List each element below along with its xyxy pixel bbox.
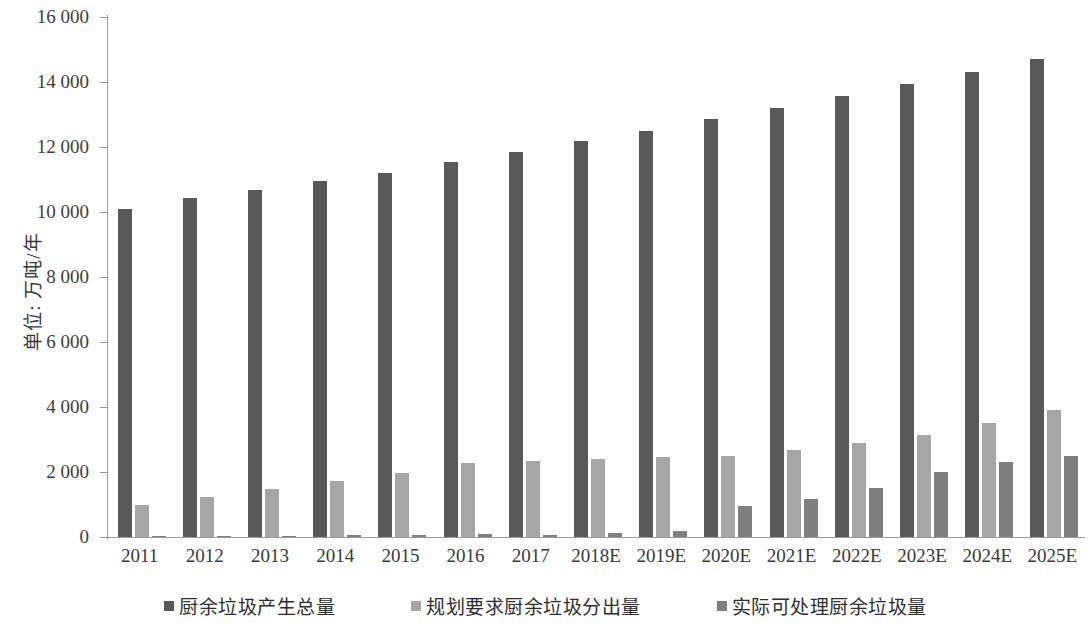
bar-2018e-series2[interactable]: [591, 459, 605, 537]
bar-group: [248, 17, 296, 537]
bar-2016-series2[interactable]: [461, 463, 475, 537]
bar-2018e-series3[interactable]: [608, 533, 622, 537]
bar-2023e-series2[interactable]: [917, 435, 931, 537]
bar-2016-series3[interactable]: [478, 534, 492, 537]
bar-2017-series1[interactable]: [509, 152, 523, 537]
bar-group: [900, 17, 948, 537]
x-axis-tick-label: 2012: [172, 545, 237, 567]
bar-2025e-series1[interactable]: [1030, 59, 1044, 537]
x-axis-tick-label: 2017: [498, 545, 563, 567]
y-axis-tick-label: 0: [0, 526, 95, 548]
x-axis-tick-label: 2019E: [629, 545, 694, 567]
x-axis-tick-label: 2023E: [889, 545, 954, 567]
bar-2019e-series3[interactable]: [673, 531, 687, 538]
bar-2021e-series3[interactable]: [804, 499, 818, 537]
bar-2017-series3[interactable]: [543, 535, 557, 537]
bar-2021e-series1[interactable]: [770, 108, 784, 537]
bar-2011-series2[interactable]: [135, 505, 149, 538]
y-axis-tick-label: 2 000: [0, 461, 95, 483]
bar-group: [704, 17, 752, 537]
legend-label: 厨余垃圾产生总量: [179, 592, 335, 619]
bar-2011-series3[interactable]: [152, 536, 166, 537]
bar-2021e-series2[interactable]: [787, 450, 801, 537]
x-axis-tick-label: 2025E: [1020, 545, 1085, 567]
y-axis-tick: [100, 277, 107, 278]
bar-2014-series1[interactable]: [313, 181, 327, 537]
x-axis-tick-label: 2022E: [824, 545, 889, 567]
x-axis-tick-label: 2024E: [955, 545, 1020, 567]
legend-item-3[interactable]: 实际可处理厨余垃圾量: [717, 592, 927, 619]
legend-item-2[interactable]: 规划要求厨余垃圾分出量: [411, 592, 641, 619]
bar-2013-series1[interactable]: [248, 190, 262, 537]
bar-2017-series2[interactable]: [526, 461, 540, 537]
x-axis-tick-label: 2016: [433, 545, 498, 567]
x-axis-tick-label: 2013: [237, 545, 302, 567]
bar-group: [574, 17, 622, 537]
bar-2012-series3[interactable]: [217, 536, 231, 537]
bar-2025e-series3[interactable]: [1064, 456, 1078, 537]
bar-2014-series2[interactable]: [330, 481, 344, 537]
y-axis-tick: [100, 82, 107, 83]
legend-label: 实际可处理厨余垃圾量: [732, 592, 927, 619]
x-axis-tick-label: 2011: [107, 545, 172, 567]
bar-group: [770, 17, 818, 537]
bar-group: [639, 17, 687, 537]
bar-2022e-series2[interactable]: [852, 443, 866, 537]
bar-group: [118, 17, 166, 537]
bar-2013-series2[interactable]: [265, 489, 279, 537]
x-axis-tick-label: 2018E: [563, 545, 628, 567]
bar-2025e-series2[interactable]: [1047, 410, 1061, 537]
y-axis-tick-label: 8 000: [0, 266, 95, 288]
x-axis-tick-label: 2021E: [759, 545, 824, 567]
bar-2015-series1[interactable]: [378, 173, 392, 537]
bar-group: [965, 17, 1013, 537]
bar-2024e-series3[interactable]: [999, 462, 1013, 537]
bar-group: [1030, 17, 1078, 537]
bar-2024e-series2[interactable]: [982, 423, 996, 537]
bar-2022e-series1[interactable]: [835, 96, 849, 537]
bar-2019e-series1[interactable]: [639, 131, 653, 537]
bar-2023e-series1[interactable]: [900, 84, 914, 537]
bar-2015-series2[interactable]: [395, 473, 409, 537]
y-axis-tick: [100, 472, 107, 473]
bar-2015-series3[interactable]: [412, 535, 426, 537]
x-axis-tick-label: 2015: [368, 545, 433, 567]
bar-2011-series1[interactable]: [118, 209, 132, 537]
bar-2023e-series3[interactable]: [934, 472, 948, 537]
y-axis-tick: [100, 17, 107, 18]
y-axis-tick: [100, 537, 107, 538]
bar-2022e-series3[interactable]: [869, 488, 883, 537]
bar-2020e-series2[interactable]: [721, 456, 735, 537]
chart-legend: 厨余垃圾产生总量规划要求厨余垃圾分出量实际可处理厨余垃圾量: [0, 592, 1091, 619]
legend-swatch-icon: [717, 601, 727, 611]
bar-group: [835, 17, 883, 537]
y-axis-tick-label: 10 000: [0, 201, 95, 223]
bar-2012-series2[interactable]: [200, 497, 214, 537]
bar-group: [509, 17, 557, 537]
legend-swatch-icon: [411, 601, 421, 611]
legend-swatch-icon: [164, 601, 174, 611]
y-axis-tick: [100, 407, 107, 408]
legend-label: 规划要求厨余垃圾分出量: [426, 592, 641, 619]
plot-area: [107, 17, 1085, 537]
bar-2016-series1[interactable]: [444, 162, 458, 537]
y-axis-tick: [100, 212, 107, 213]
bar-group: [183, 17, 231, 537]
bar-2024e-series1[interactable]: [965, 72, 979, 537]
y-axis-tick-label: 14 000: [0, 71, 95, 93]
legend-item-1[interactable]: 厨余垃圾产生总量: [164, 592, 335, 619]
bar-2019e-series2[interactable]: [656, 457, 670, 537]
bar-2018e-series1[interactable]: [574, 141, 588, 538]
y-axis-tick: [100, 147, 107, 148]
bar-2014-series3[interactable]: [347, 535, 361, 537]
y-axis-tick-label: 16 000: [0, 6, 95, 28]
bar-2013-series3[interactable]: [282, 536, 296, 537]
bar-2020e-series1[interactable]: [704, 119, 718, 537]
bar-group: [444, 17, 492, 537]
bar-2012-series1[interactable]: [183, 198, 197, 537]
bar-2020e-series3[interactable]: [738, 506, 752, 537]
bar-group: [313, 17, 361, 537]
y-axis-tick: [100, 342, 107, 343]
x-axis-tick-label: 2014: [303, 545, 368, 567]
y-axis-tick-label: 6 000: [0, 331, 95, 353]
